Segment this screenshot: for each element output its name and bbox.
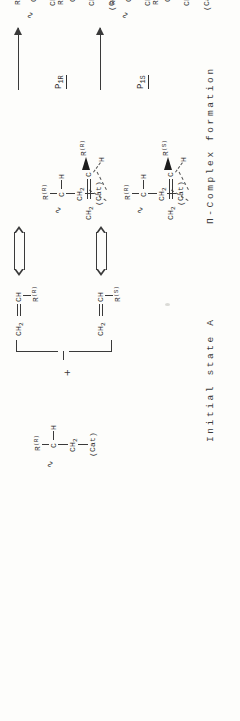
pi-S-bond-r-c: [132, 193, 139, 194]
brr-u1-r: R(R): [13, 0, 22, 5]
pi-R-olefin-ch2: CH2: [84, 206, 95, 220]
pi-S-olefin-double-bond: [169, 179, 173, 199]
pi-S-olefin-r: R(S): [161, 139, 170, 155]
scan-speck: [165, 303, 170, 306]
pi-R-chain-c: C: [57, 191, 66, 196]
brs-cat-group: (Cat): [202, 0, 211, 11]
pi-S-wedge-bond: [164, 157, 172, 170]
monomer-S-r-label: R(S): [113, 285, 122, 301]
brr-u2-c: C: [68, 0, 77, 2]
tag-p1s: P1S: [136, 75, 149, 89]
pi-R-chain-r: R(R): [41, 183, 50, 199]
pi-R-bond-c-ch2-v: [66, 193, 75, 194]
catalyst-bond-r-c: [42, 444, 49, 445]
pi-R-bond-r-c: [50, 193, 57, 194]
monomer-R-double-bond: [17, 304, 21, 316]
pi-S-chain-ch2: CH2: [157, 187, 168, 201]
monomer-S-ch2: CH2: [96, 322, 107, 336]
pi-S-chain-h: H: [139, 173, 148, 178]
pi-R-olefin-double-bond: [87, 179, 91, 199]
pi-R-bond-c-h: [61, 180, 62, 189]
catalyst-ch2: CH2: [68, 438, 79, 452]
catalyst-bond-ch2-cat: [78, 444, 88, 445]
pi-R-wedge-bond: [82, 157, 90, 170]
monomer-R-bond-ch-r: [23, 295, 31, 296]
brs-chain-end: ∿: [120, 12, 131, 19]
brr-u1-c: C: [29, 0, 38, 2]
monomer-R-ch: CH: [14, 291, 23, 301]
brr-u2-r-label: R(R): [56, 0, 65, 5]
tag-p1r: P1R: [54, 75, 67, 89]
pi-S-bond-c-h: [143, 180, 144, 189]
catalyst-r-label: R(R): [33, 434, 42, 450]
pi-S-bond-c-ch2-v: [148, 193, 157, 194]
brs-tail-ch2: CH2: [182, 0, 193, 6]
catalyst-cat-group: (Cat): [88, 431, 97, 456]
monomer-brace: [16, 340, 112, 360]
pi-S-olefin-ch2: CH2: [166, 206, 177, 220]
pi-R-olefin-c: C: [84, 171, 93, 176]
pi-S-olefin-h: H: [179, 156, 188, 161]
pi-R-chain-ch2: CH2: [75, 187, 86, 201]
pi-S-olefin-c: C: [166, 171, 175, 176]
pi-S-chain-end: ∿: [135, 207, 146, 214]
monomer-R-ch2: CH2: [14, 322, 25, 336]
monomer-S-double-bond: [99, 304, 103, 316]
equilibrium-arrow-S: [96, 226, 105, 276]
plus-operator: +: [62, 369, 74, 376]
scanned-page: Initial state A Π-Complex formation Fina…: [0, 0, 240, 721]
brs-u2-r-label: R(S): [151, 0, 160, 5]
equilibrium-arrow-R: [14, 226, 23, 276]
brs-u1-c: C: [124, 0, 133, 2]
caption-initial-state: Initial state A: [205, 317, 216, 442]
pi-S-chain-r: R(R): [123, 183, 132, 199]
reaction-scheme-canvas: Initial state A Π-Complex formation Fina…: [0, 0, 240, 482]
insertion-arrow-S: [96, 28, 105, 90]
pi-R-olefin-h-dash: [93, 162, 101, 172]
pi-R-olefin-r: R(R): [79, 139, 88, 155]
brs-u1-r: R(R): [108, 0, 117, 5]
brr-tail-ch2: CH2: [87, 0, 98, 6]
insertion-arrow-R: [14, 28, 23, 90]
pi-R-chain-end: ∿: [53, 207, 64, 214]
pi-R-olefin-h: H: [97, 156, 106, 161]
pi-S-chain-c: C: [139, 191, 148, 196]
brs-u2-c: C: [163, 0, 172, 2]
catalyst-bond-c-h: [53, 431, 54, 440]
catalyst-center-c: C: [49, 442, 58, 447]
catalyst-bond-c-ch2: [58, 444, 68, 445]
monomer-S-ch: CH: [96, 291, 105, 301]
catalyst-h: H: [49, 424, 58, 429]
pi-R-chain-h: H: [57, 173, 66, 178]
chain-end-squiggle: ∿: [45, 461, 56, 468]
pi-S-olefin-h-dash: [175, 162, 183, 172]
monomer-S-bond-ch-r: [105, 295, 113, 296]
monomer-R-r-label: R(R): [31, 285, 40, 301]
brr-chain-end: ∿: [25, 12, 36, 19]
caption-complex-formation: Π-Complex formation: [205, 66, 216, 224]
